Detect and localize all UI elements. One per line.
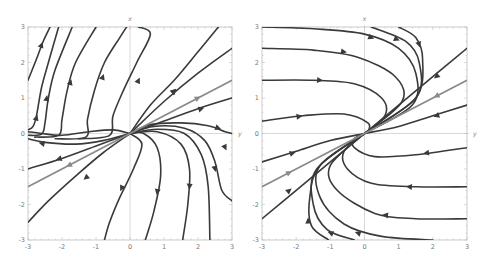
x-tick-label: 1 bbox=[162, 243, 166, 251]
y-tick-label: 0 bbox=[255, 130, 259, 138]
arrow-icon bbox=[423, 150, 429, 156]
arrow-icon bbox=[328, 231, 335, 237]
y-tick-label: -1 bbox=[253, 165, 259, 173]
arrow-icon bbox=[187, 184, 193, 190]
streamline bbox=[130, 132, 161, 240]
y-tick-label: -2 bbox=[253, 201, 259, 209]
y-tick-label: 3 bbox=[255, 23, 259, 31]
y-tick-label: -3 bbox=[253, 236, 259, 244]
right-axis-label: y bbox=[472, 130, 477, 138]
top-axis-label: x bbox=[127, 15, 132, 23]
streamline bbox=[262, 134, 365, 162]
arrow-icon bbox=[285, 188, 292, 194]
streamline bbox=[352, 134, 467, 158]
streamline bbox=[343, 134, 467, 188]
arrow-icon bbox=[134, 78, 139, 85]
y-tick-label: 3 bbox=[21, 23, 25, 31]
y-tick-label: 0 bbox=[21, 130, 25, 138]
arrow-icon bbox=[84, 174, 91, 180]
arrow-icon bbox=[221, 144, 226, 151]
x-tick-label: 2 bbox=[196, 243, 200, 251]
streamline bbox=[130, 126, 232, 201]
stream-plot-left: -3-2-10123-3-2-10123xy bbox=[19, 15, 242, 251]
arrow-icon bbox=[211, 165, 217, 171]
streamline bbox=[365, 27, 422, 134]
x-tick-label: -3 bbox=[259, 243, 265, 251]
streamline bbox=[28, 27, 50, 80]
streamline bbox=[262, 80, 387, 133]
y-tick-label: 2 bbox=[255, 59, 259, 67]
x-tick-label: -2 bbox=[59, 243, 65, 251]
x-tick-label: 2 bbox=[431, 243, 435, 251]
stream-plot-right: -3-2-10123-3-2-10123xy bbox=[253, 15, 477, 251]
streamline bbox=[262, 114, 370, 134]
x-tick-label: -1 bbox=[327, 243, 333, 251]
y-tick-label: -2 bbox=[19, 201, 25, 209]
streamline bbox=[130, 48, 232, 133]
arrow-icon bbox=[406, 184, 412, 190]
streamline bbox=[262, 48, 404, 133]
x-tick-label: -2 bbox=[293, 243, 299, 251]
x-tick-label: 0 bbox=[128, 243, 132, 251]
x-tick-label: -3 bbox=[25, 243, 31, 251]
y-tick-label: 1 bbox=[255, 94, 259, 102]
x-tick-label: 3 bbox=[465, 243, 469, 251]
y-tick-label: 2 bbox=[21, 59, 25, 67]
right-axis-label: y bbox=[237, 130, 242, 138]
arrow-icon bbox=[317, 77, 323, 83]
streamline bbox=[365, 105, 468, 133]
figure: -3-2-10123-3-2-10123xy -3-2-10123-3-2-10… bbox=[0, 0, 488, 264]
x-tick-label: 1 bbox=[397, 243, 401, 251]
x-tick-label: -1 bbox=[93, 243, 99, 251]
y-tick-label: -1 bbox=[19, 165, 25, 173]
y-tick-label: 1 bbox=[21, 94, 25, 102]
arrow-icon bbox=[355, 231, 362, 237]
y-tick-label: -3 bbox=[19, 236, 25, 244]
arrow-icon bbox=[296, 114, 302, 120]
arrow-icon bbox=[33, 115, 39, 122]
top-axis-label: x bbox=[362, 15, 367, 23]
x-tick-label: 0 bbox=[362, 243, 366, 251]
x-tick-label: 3 bbox=[230, 243, 234, 251]
streamline bbox=[328, 134, 467, 220]
